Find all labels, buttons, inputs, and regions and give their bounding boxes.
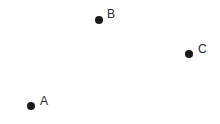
point-label-c: C [198,43,207,55]
point-marker-icon [27,102,35,110]
point-marker-icon [95,16,103,24]
point-label-a: A [40,95,48,107]
scatter-plot-canvas: ABC [0,0,220,124]
point-label-b: B [107,8,115,20]
point-marker-icon [185,50,193,58]
